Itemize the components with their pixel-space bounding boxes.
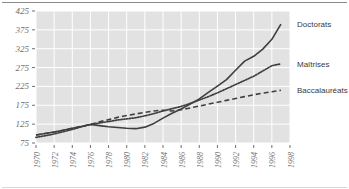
x-tick-label: 1974 [69,152,78,168]
x-tick-label: 1988 [196,152,205,168]
x-tick-label: 1982 [141,152,150,168]
x-tick-label: 1994 [250,152,259,168]
x-axis-ticks [36,145,290,148]
x-tick-label: 1990 [214,152,223,168]
x-tick-label: 1972 [51,152,60,168]
y-tick-label: 325 [15,44,30,54]
chart-figure: 75125175225275325375425 1970197219741976… [0,0,349,189]
x-tick-label: 1970 [33,152,42,168]
line-chart: 75125175225275325375425 1970197219741976… [0,0,349,189]
y-tick-label: 225 [16,81,30,91]
x-tick-label: 1998 [287,152,296,168]
y-tick-label: 275 [16,63,30,73]
x-tick-label: 1992 [232,152,241,168]
y-tick-label: 425 [16,6,30,16]
x-tick-label: 1986 [178,152,187,168]
series-label-matrises: Maîtrises [297,60,329,69]
x-tick-label: 1980 [123,152,132,168]
y-tick-label: 375 [15,25,30,35]
x-tick-label: 1976 [87,152,96,168]
series-label-baccalaurats: Baccalauréats [297,86,348,95]
series-label-doctorats: Doctorats [297,20,331,29]
y-axis-ticks [32,11,35,143]
x-axis-tick-labels: 1970197219741976197819801982198419861988… [33,152,296,168]
y-axis-tick-labels: 75125175225275325375425 [15,6,30,148]
x-tick-label: 1984 [160,152,169,168]
x-tick-label: 1996 [268,152,277,168]
series-inline-legend: DoctoratsMaîtrisesBaccalauréats [297,20,348,95]
y-tick-label: 125 [16,119,30,129]
y-tick-label: 75 [20,138,30,148]
x-tick-label: 1978 [105,152,114,168]
y-tick-label: 175 [16,100,30,110]
